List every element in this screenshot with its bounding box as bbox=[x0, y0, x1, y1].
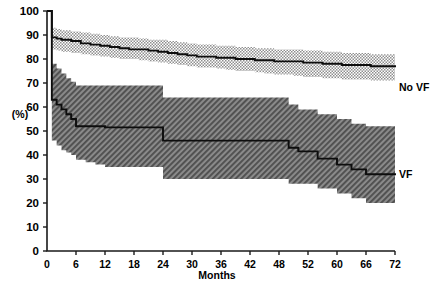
x-tick-label: 52 bbox=[302, 258, 314, 270]
y-tick-label: 100 bbox=[20, 5, 39, 17]
y-tick-label: 80 bbox=[26, 53, 39, 65]
series-label-no-vf: No VF bbox=[399, 81, 430, 93]
x-tick-label: 60 bbox=[331, 258, 343, 270]
y-tick-label: 0 bbox=[33, 245, 39, 257]
y-tick-label: 10 bbox=[26, 221, 39, 233]
x-tick-label: 42 bbox=[244, 258, 256, 270]
y-tick-label: 30 bbox=[26, 173, 39, 185]
y-tick-label: 90 bbox=[26, 29, 39, 41]
x-tick-label: 30 bbox=[186, 258, 198, 270]
confidence-bands bbox=[47, 11, 395, 203]
y-tick-label: 20 bbox=[26, 197, 39, 209]
x-tick-label: 66 bbox=[360, 258, 372, 270]
x-tick-label: 6 bbox=[73, 258, 79, 270]
x-tick-label: 0 bbox=[44, 258, 50, 270]
x-tick-label: 72 bbox=[389, 258, 401, 270]
y-axis-title: (%) bbox=[12, 108, 28, 120]
band-no-vf bbox=[47, 11, 395, 81]
series-label-vf: VF bbox=[399, 168, 413, 180]
x-tick-label: 18 bbox=[128, 258, 140, 270]
x-axis-title: Months bbox=[198, 269, 235, 281]
y-tick-label: 50 bbox=[26, 125, 39, 137]
x-tick-label: 48 bbox=[273, 258, 285, 270]
y-tick-labels: 0102030405060708090100 bbox=[20, 5, 39, 257]
chart-svg: 0102030405060708090100 06121824303642485… bbox=[0, 0, 432, 286]
x-tick-label: 24 bbox=[157, 258, 169, 270]
survival-chart: 0102030405060708090100 06121824303642485… bbox=[0, 0, 432, 286]
y-tick-label: 70 bbox=[26, 77, 39, 89]
x-tick-label: 12 bbox=[99, 258, 111, 270]
y-tick-label: 40 bbox=[26, 149, 39, 161]
